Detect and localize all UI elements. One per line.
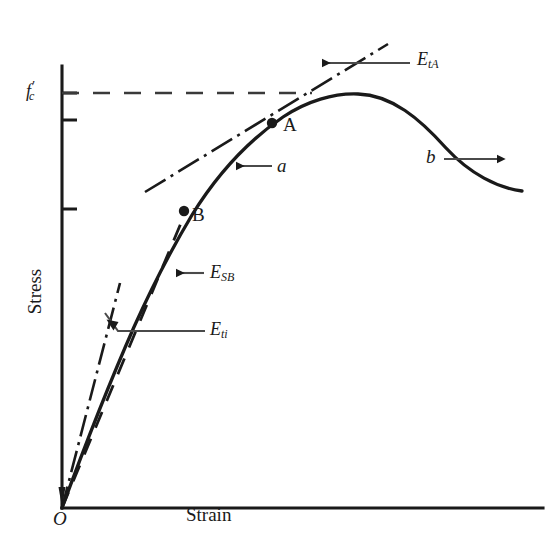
secant-modulus-b-subscript: SB xyxy=(221,270,234,284)
point-B-marker xyxy=(179,206,189,216)
point-a-label: A xyxy=(283,115,297,134)
initial-tangent-modulus-subscript: ti xyxy=(221,327,228,341)
tangent-modulus-a-base: E xyxy=(417,49,428,69)
figure-canvas xyxy=(0,0,546,553)
peak-stress-label: fc′ xyxy=(26,80,34,102)
y-axis-title: Stress xyxy=(25,257,44,327)
point-b-label: B xyxy=(192,205,205,224)
branch-b-label: b xyxy=(426,147,436,166)
point-A-marker xyxy=(267,118,277,128)
tangent-modulus-a-subscript: tA xyxy=(428,57,439,71)
axis-lines xyxy=(59,66,544,508)
tangent-modulus-a-label: EtA xyxy=(417,50,439,70)
secant-modulus-b-label: ESB xyxy=(210,263,234,283)
x-axis-title: Strain xyxy=(186,505,231,524)
secant-modulus-b-base: E xyxy=(210,262,221,282)
stress-strain-figure: Strain Stress O fc′ A B a b EtA ESB Eti xyxy=(0,0,546,553)
tangent-line-at-A xyxy=(145,44,388,192)
initial-tangent-modulus-label: Eti xyxy=(210,320,228,340)
secant-line-to-B xyxy=(62,211,186,508)
peak-stress-prime: ′ xyxy=(31,79,34,94)
branch-a-label: a xyxy=(277,156,287,175)
initial-tangent-modulus-base: E xyxy=(210,319,221,339)
origin-label: O xyxy=(53,509,67,528)
stress-strain-curve xyxy=(62,94,522,508)
initial-tangent-line xyxy=(62,283,120,508)
y-axis-ticks xyxy=(62,93,77,209)
leader-initial-tangent-modulus xyxy=(105,313,205,331)
